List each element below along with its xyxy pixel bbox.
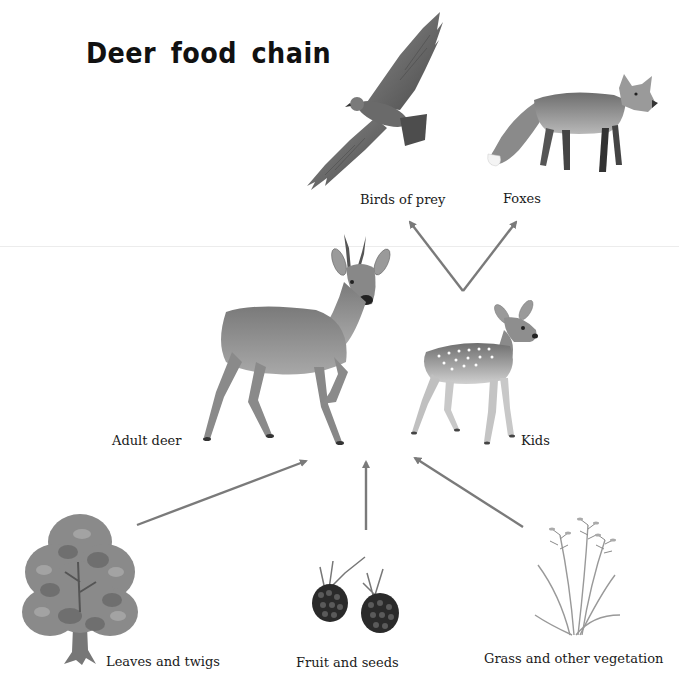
label-foxes: Foxes (503, 191, 541, 206)
label-adult-deer: Adult deer (112, 433, 182, 448)
arrow-kids-to-birds (410, 222, 463, 291)
label-fruit-and-seeds: Fruit and seeds (296, 655, 399, 670)
food-chain-diagram: Deer food chain (0, 0, 679, 693)
label-leaves-and-twigs: Leaves and twigs (106, 654, 220, 669)
food-chain-arrows (0, 0, 679, 693)
label-grass: Grass and other vegetation (484, 651, 663, 666)
label-kids: Kids (521, 433, 550, 448)
arrow-leaves-to-deer (137, 461, 306, 525)
arrow-grass-to-deer (415, 458, 523, 527)
arrow-kids-to-foxes (463, 222, 516, 291)
label-birds-of-prey: Birds of prey (360, 192, 445, 207)
